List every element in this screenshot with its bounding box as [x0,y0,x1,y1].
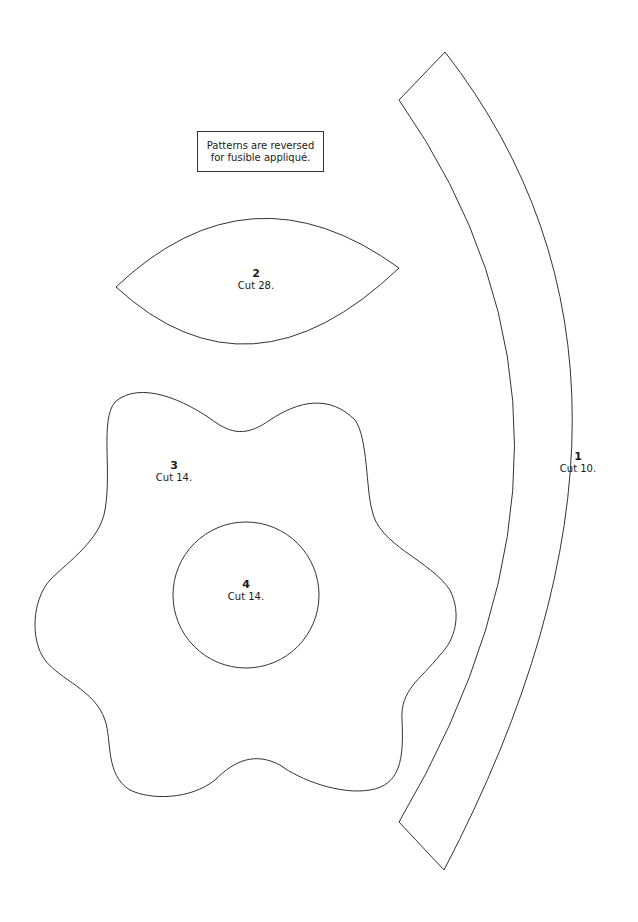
note-line-1: Patterns are reversed [207,140,315,152]
piece-1-label: 1 Cut 10. [560,451,596,475]
reversed-patterns-note: Patterns are reversed for fusible appliq… [197,131,324,172]
note-line-2: for fusible appliqué. [211,152,311,164]
piece-3-number: 3 [156,460,192,472]
piece-2-number: 2 [238,268,274,280]
piece-2-cut: Cut 28. [238,280,274,291]
piece-4-cut: Cut 14. [228,591,264,602]
piece-2-label: 2 Cut 28. [238,268,274,292]
piece-3-label: 3 Cut 14. [156,460,192,484]
piece-4-number: 4 [228,579,264,591]
piece-1-cut: Cut 10. [560,463,596,474]
piece-3-cut: Cut 14. [156,472,192,483]
piece-4-label: 4 Cut 14. [228,579,264,603]
piece-1-curved-band [399,52,572,870]
piece-1-number: 1 [560,451,596,463]
